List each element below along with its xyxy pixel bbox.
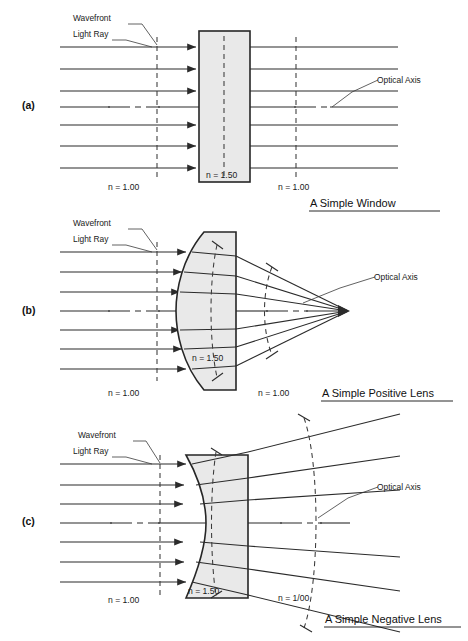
panel-c-n-left: n = 1.00: [108, 595, 140, 605]
panel-b-n-glass: n = 1.50: [192, 353, 224, 363]
panel-c-caption: A Simple Negative Lens: [325, 613, 442, 625]
panel-c-optical-axis-label: Optical Axis: [377, 482, 421, 492]
panel-b-wavefront-label: Wavefront: [73, 218, 112, 228]
panel-c-wavefront-label: Wavefront: [78, 430, 117, 440]
panel-a-light-ray-label: Light Ray: [73, 29, 109, 39]
panel-b: (b): [22, 218, 453, 401]
panel-a-n-right: n = 1.00: [278, 182, 310, 192]
panel-c-letter: (c): [22, 515, 35, 527]
panel-c-n-glass: n = 1.50: [188, 586, 220, 596]
panel-a-wavefront-label: Wavefront: [73, 13, 112, 23]
panel-b-n-left: n = 1.00: [108, 388, 140, 398]
panel-a-optical-axis-label: Optical Axis: [377, 75, 421, 85]
figure-canvas: (a): [0, 0, 468, 641]
panel-a: (a): [22, 13, 440, 211]
window-glass-block: [199, 31, 250, 182]
panel-b-n-right: n = 1.00: [258, 388, 290, 398]
panel-b-letter: (b): [22, 304, 35, 316]
panel-a-n-left: n = 1.00: [108, 182, 140, 192]
panel-a-n-glass: n = 1.50: [206, 170, 238, 180]
panel-b-light-ray-label: Light Ray: [73, 234, 109, 244]
optics-figure: (a): [0, 0, 468, 641]
panel-b-caption: A Simple Positive Lens: [322, 387, 434, 399]
panel-c-light-ray-label: Light Ray: [73, 446, 109, 456]
panel-a-caption: A Simple Window: [310, 197, 396, 209]
negative-lens-body: [186, 455, 248, 598]
panel-c-n-right: n = 1/00: [278, 593, 310, 603]
panel-b-focal-point: [338, 305, 350, 317]
panel-c: (c): [22, 414, 461, 632]
panel-a-letter: (a): [22, 99, 35, 111]
panel-b-optical-axis-label: Optical Axis: [374, 272, 418, 282]
